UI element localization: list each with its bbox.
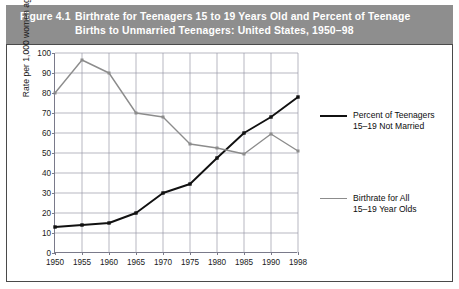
figure-title-part-1: Birthrate for Teenagers 15 to 19 Years O… bbox=[75, 11, 410, 22]
x-tick-label: 1955 bbox=[73, 258, 91, 267]
figure-title-bar: Figure 4.1Birthrate for Teenagers 15 to … bbox=[6, 5, 453, 44]
legend-label-line-1: Percent of Teenagers bbox=[353, 110, 448, 121]
chart-legend: Percent of Teenagers 15–19 Not Married B… bbox=[320, 53, 448, 253]
x-tick-mark bbox=[163, 252, 164, 255]
legend-swatch-gray-line bbox=[320, 198, 347, 199]
y-tick-mark bbox=[52, 113, 55, 114]
legend-label-line-2: 15–19 Not Married bbox=[353, 121, 448, 132]
legend-label-birthrate-all: Birthrate for All 15–19 Year Olds bbox=[353, 193, 448, 216]
y-tick-label: 30 bbox=[42, 189, 51, 198]
x-tick-mark bbox=[55, 252, 56, 255]
legend-label-line-1: Birthrate for All bbox=[353, 193, 448, 204]
y-tick-label: 0 bbox=[46, 249, 51, 258]
chart-series-lines bbox=[55, 53, 298, 253]
x-tick-label: 1950 bbox=[46, 258, 64, 267]
y-tick-mark bbox=[52, 173, 55, 174]
x-tick-label: 1975 bbox=[181, 258, 199, 267]
figure-title-text: Figure 4.1Birthrate for Teenagers 15 to … bbox=[20, 10, 447, 38]
y-tick-label: 40 bbox=[42, 169, 51, 178]
x-tick-label: 1998 bbox=[289, 258, 307, 267]
x-tick-mark bbox=[109, 252, 110, 255]
x-tick-mark bbox=[298, 252, 299, 255]
y-tick-label: 10 bbox=[42, 229, 51, 238]
x-tick-mark bbox=[217, 252, 218, 255]
y-tick-label: 60 bbox=[42, 129, 51, 138]
legend-swatch-black-line bbox=[320, 115, 347, 117]
x-tick-mark bbox=[271, 252, 272, 255]
y-tick-label: 50 bbox=[42, 149, 51, 158]
x-tick-mark bbox=[190, 252, 191, 255]
x-tick-label: 1960 bbox=[100, 258, 118, 267]
x-tick-label: 1990 bbox=[262, 258, 280, 267]
x-tick-label: 1985 bbox=[235, 258, 253, 267]
y-axis-title: Rate per 1,000 women aged 15-19 years bbox=[21, 0, 31, 109]
chart-frame: Rate per 1,000 women aged 15-19 years 01… bbox=[6, 44, 453, 282]
y-tick-mark bbox=[52, 53, 55, 54]
y-tick-mark bbox=[52, 93, 55, 94]
x-tick-label: 1965 bbox=[127, 258, 145, 267]
y-tick-mark bbox=[52, 233, 55, 234]
legend-entry-birthrate-all: Birthrate for All 15–19 Year Olds bbox=[320, 193, 448, 216]
y-tick-mark bbox=[52, 133, 55, 134]
y-tick-mark bbox=[52, 73, 55, 74]
y-tick-label: 100 bbox=[37, 49, 51, 58]
legend-label-percent-not-married: Percent of Teenagers 15–19 Not Married bbox=[353, 110, 448, 133]
y-tick-label: 20 bbox=[42, 209, 51, 218]
x-tick-mark bbox=[136, 252, 137, 255]
x-tick-label: 1970 bbox=[154, 258, 172, 267]
figure-container: Figure 4.1Birthrate for Teenagers 15 to … bbox=[0, 0, 459, 289]
figure-title-line-1: Figure 4.1Birthrate for Teenagers 15 to … bbox=[20, 10, 447, 24]
legend-label-line-2: 15–19 Year Olds bbox=[353, 204, 448, 215]
legend-entry-percent-not-married: Percent of Teenagers 15–19 Not Married bbox=[320, 110, 448, 133]
plot-area: Rate per 1,000 women aged 15-19 years 01… bbox=[54, 53, 297, 253]
figure-title-line-2: Births to Unmarried Teenagers: United St… bbox=[20, 24, 447, 38]
x-tick-label: 1980 bbox=[208, 258, 226, 267]
y-tick-mark bbox=[52, 193, 55, 194]
y-tick-mark bbox=[52, 153, 55, 154]
y-tick-mark bbox=[52, 213, 55, 214]
x-tick-mark bbox=[244, 252, 245, 255]
y-tick-label: 70 bbox=[42, 109, 51, 118]
x-tick-mark bbox=[82, 252, 83, 255]
y-tick-label: 80 bbox=[42, 89, 51, 98]
y-tick-label: 90 bbox=[42, 69, 51, 78]
